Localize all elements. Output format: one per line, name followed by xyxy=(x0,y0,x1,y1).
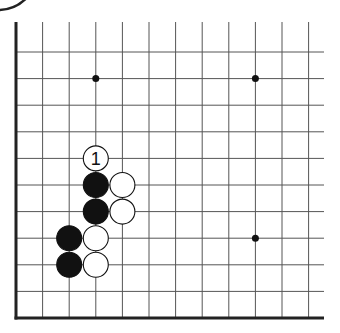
star-point xyxy=(252,235,259,242)
star-point xyxy=(92,75,99,82)
star-point xyxy=(252,75,259,82)
white-stone xyxy=(83,252,108,277)
white-stone xyxy=(110,173,135,198)
black-stone xyxy=(57,226,82,251)
white-stone xyxy=(83,226,108,251)
black-stone xyxy=(57,252,82,277)
move-number-label: 1 xyxy=(91,149,101,169)
black-stone xyxy=(83,173,108,198)
white-stone: 1 xyxy=(83,146,108,171)
go-board: 1 xyxy=(0,0,340,333)
white-stone xyxy=(110,199,135,224)
black-stone xyxy=(83,199,108,224)
corner-circle-decoration xyxy=(0,0,38,10)
